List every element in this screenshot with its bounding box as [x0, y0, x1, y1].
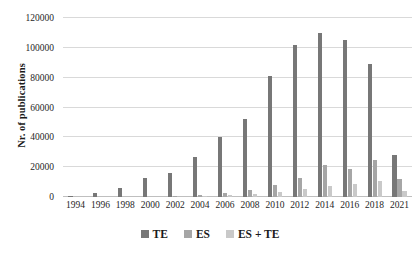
legend-item: TE [141, 228, 168, 240]
bar [328, 186, 332, 197]
x-axis-tick-label: 2008 [240, 200, 259, 210]
legend-item: ES [184, 228, 210, 240]
bar [368, 64, 372, 197]
y-axis-tick-labels: 020000400006000080000100000120000 [0, 18, 59, 197]
bar-group [362, 18, 387, 197]
bar [343, 40, 347, 197]
bar-group [387, 18, 412, 197]
bar [353, 184, 357, 197]
bar [293, 45, 297, 197]
y-axis-tick-label: 80000 [30, 73, 54, 83]
bar [323, 165, 327, 197]
bar [218, 137, 222, 197]
bar [203, 196, 207, 197]
x-axis-tick-label: 2018 [365, 200, 384, 210]
legend-label: TE [153, 228, 168, 240]
bar [243, 119, 247, 197]
y-axis-tick-label: 20000 [30, 162, 54, 172]
bar [93, 193, 97, 197]
bar [198, 195, 202, 197]
legend-swatch-icon [184, 230, 192, 238]
bar [278, 192, 282, 197]
y-axis-tick-label: 0 [49, 192, 54, 202]
publications-bar-chart: Nr. of publications 02000040000600008000… [0, 0, 420, 255]
y-axis-tick-label: 60000 [30, 103, 54, 113]
bar [173, 196, 177, 197]
bar [253, 194, 257, 197]
bar [143, 178, 147, 197]
bar-group [138, 18, 163, 197]
bar-group [337, 18, 362, 197]
bar-group [188, 18, 213, 197]
bar [402, 191, 406, 197]
bars-layer [63, 18, 412, 197]
x-axis-tick-label: 2014 [315, 200, 334, 210]
x-axis-tick-label: 2006 [216, 200, 235, 210]
bar [248, 190, 252, 197]
x-axis-tick-label: 2016 [340, 200, 359, 210]
bar [193, 157, 197, 197]
x-axis-tick-label: 2004 [191, 200, 210, 210]
bar-group [163, 18, 188, 197]
x-axis-tick-label: 2002 [166, 200, 185, 210]
bar [397, 179, 401, 197]
bar [318, 33, 322, 197]
bar [348, 169, 352, 197]
bar-group [312, 18, 337, 197]
x-axis-tick-label: 2000 [141, 200, 160, 210]
bar [223, 193, 227, 197]
x-axis-tick-label: 1998 [116, 200, 135, 210]
bar-group [113, 18, 138, 197]
x-axis-tick-label: 1996 [91, 200, 110, 210]
bar [228, 195, 232, 197]
bar [273, 185, 277, 197]
bar-group [88, 18, 113, 197]
legend-label: ES [196, 228, 210, 240]
y-axis-tick-label: 100000 [26, 43, 55, 53]
plot-area [63, 18, 412, 197]
x-axis-tick-labels: 1994199619982000200220042006200820102012… [63, 199, 412, 217]
chart-legend: TEESES + TE [0, 228, 420, 240]
x-axis-tick-label: 2021 [390, 200, 409, 210]
x-axis-tick-label: 1994 [66, 200, 85, 210]
bar [303, 189, 307, 197]
bar-group [262, 18, 287, 197]
legend-swatch-icon [141, 230, 149, 238]
x-axis-tick-label: 2010 [265, 200, 284, 210]
bar [373, 160, 377, 197]
bar [118, 188, 122, 197]
bar [168, 173, 172, 197]
bar [378, 181, 382, 197]
y-axis-tick-label: 120000 [26, 13, 55, 23]
legend-item: ES + TE [226, 228, 280, 240]
bar [298, 178, 302, 197]
legend-swatch-icon [226, 230, 234, 238]
bar [392, 155, 396, 198]
y-axis-tick-label: 40000 [30, 132, 54, 142]
legend-label: ES + TE [238, 228, 280, 240]
bar-group [287, 18, 312, 197]
bar [268, 76, 272, 197]
bar-group [213, 18, 238, 197]
bar [68, 196, 72, 197]
bar-group [63, 18, 88, 197]
bar-group [238, 18, 263, 197]
x-axis-tick-label: 2012 [290, 200, 309, 210]
